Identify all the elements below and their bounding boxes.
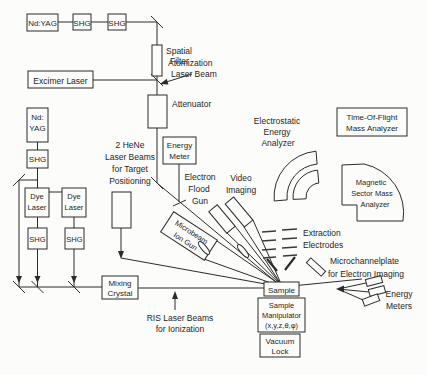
ris-label: RIS Laser Beams bbox=[147, 313, 214, 323]
attenuator-rect bbox=[148, 95, 167, 128]
excimer-laser-label: Excimer Laser bbox=[33, 76, 87, 86]
electrode-dash bbox=[262, 249, 276, 250]
nd-yag-label: Nd:YAG bbox=[28, 19, 57, 28]
diagram-canvas: Nd:YAG SHG SHG Excimer Laser Nd: YAG SHG… bbox=[0, 0, 427, 375]
arrowhead bbox=[172, 291, 178, 299]
mixing-crystal-label: Crystal bbox=[108, 289, 133, 298]
energy-meters-label: Meters bbox=[386, 301, 412, 311]
flood-gun-beam bbox=[235, 226, 282, 286]
electrode-dash bbox=[282, 247, 297, 248]
hene-label: 2 HeNe bbox=[116, 140, 145, 150]
magnetic-sector-label: Analyzer bbox=[360, 200, 390, 209]
nd-yag-left-label: Nd: bbox=[31, 113, 43, 122]
electrode-dash bbox=[262, 231, 276, 232]
tof-analyzer-label: Time-Of-Flight bbox=[347, 113, 399, 122]
spatial-filter-rect bbox=[152, 45, 162, 76]
arrowhead bbox=[16, 276, 22, 283]
shg-label: SHG bbox=[108, 19, 125, 28]
dye-laser-label: Dye bbox=[30, 192, 43, 201]
video-imaging-label: Video bbox=[230, 173, 252, 183]
shg-label: SHG bbox=[66, 235, 82, 244]
sample-label: Sample bbox=[268, 286, 296, 295]
shg-label: SHG bbox=[29, 235, 45, 244]
arrowhead bbox=[160, 79, 169, 85]
microchannelplate bbox=[306, 258, 325, 276]
electrode-dash bbox=[282, 238, 297, 239]
esa-label: Analyzer bbox=[261, 138, 294, 148]
attenuator-label: Attenuator bbox=[172, 99, 211, 109]
sample-manipulator-label: Sample bbox=[269, 301, 294, 310]
microchannelplate-label: Microchannelplate bbox=[330, 256, 399, 266]
shg-label: SHG bbox=[73, 19, 90, 28]
dye-laser-label: Dye bbox=[67, 192, 80, 201]
video-sight-line bbox=[244, 227, 282, 286]
shg-label: SHG bbox=[29, 155, 46, 164]
magnetic-sector-label: Magnetic bbox=[356, 178, 387, 187]
hene-label: Positioning bbox=[109, 176, 151, 186]
esa-inner-electrode bbox=[293, 170, 319, 199]
arrowhead bbox=[71, 276, 77, 283]
vacuum-lock-label: Lock bbox=[272, 347, 290, 356]
atomization-beam-label: Laser Beam bbox=[171, 69, 217, 79]
extraction-electrodes-label: Electrodes bbox=[303, 240, 343, 250]
hene-laser-rect bbox=[112, 192, 131, 228]
mixing-crystal-label: Mixing bbox=[108, 279, 131, 288]
electrode-dash bbox=[282, 229, 297, 230]
microchannelplate-rect bbox=[306, 258, 325, 276]
nd-yag-left-label: YAG bbox=[29, 124, 45, 133]
energy-meters-label: Energy bbox=[386, 289, 414, 299]
dye-laser-label: Laser bbox=[28, 203, 47, 212]
arrowhead bbox=[336, 286, 344, 293]
vacuum-lock-label: Vacuum bbox=[266, 337, 295, 346]
extraction-electrodes bbox=[262, 229, 297, 271]
ris-label: for Ionization bbox=[156, 324, 205, 334]
esa-label: Electrostatic bbox=[254, 116, 301, 126]
deflector-plate bbox=[285, 257, 295, 270]
electrode-dash bbox=[263, 257, 276, 258]
arrowhead bbox=[35, 276, 41, 283]
sample-manipulator-label: Manipulator bbox=[262, 311, 302, 320]
esa-label: Energy bbox=[264, 127, 292, 137]
electron-flood-gun-label: Flood bbox=[188, 184, 210, 194]
electron-flood-gun-label: Electron bbox=[184, 172, 215, 182]
energy-meter-label: Energy bbox=[167, 141, 192, 150]
microchannelplate-label: for Electron Imaging bbox=[328, 269, 404, 279]
energy-meter-label: Meter bbox=[169, 152, 190, 161]
electrode-dash bbox=[283, 255, 297, 256]
energy-meters-cluster bbox=[362, 276, 385, 306]
atomization-beam-label: Atomization bbox=[168, 58, 213, 68]
spatial-filter-label: Spatial bbox=[166, 46, 192, 56]
tof-analyzer-label: Mass Analyzer bbox=[346, 124, 398, 133]
extraction-electrodes-label: Extraction bbox=[303, 228, 341, 238]
hene-label: Laser Beams bbox=[105, 152, 155, 162]
dye-laser-label: Laser bbox=[65, 203, 84, 212]
electron-flood-gun-label: Gun bbox=[192, 196, 208, 206]
arrowhead bbox=[118, 251, 124, 259]
energy-meter-head bbox=[362, 294, 379, 306]
video-imaging-label: Imaging bbox=[226, 185, 257, 195]
magnetic-sector-label: Sector Mass bbox=[351, 189, 393, 198]
hene-label: for Target bbox=[112, 164, 148, 174]
electrode-dash bbox=[262, 240, 276, 241]
sample-manipulator-label: (x,y,z,θ,φ) bbox=[265, 321, 299, 330]
laser-ablation-instrument-diagram: Nd:YAG SHG SHG Excimer Laser Nd: YAG SHG… bbox=[0, 0, 427, 375]
